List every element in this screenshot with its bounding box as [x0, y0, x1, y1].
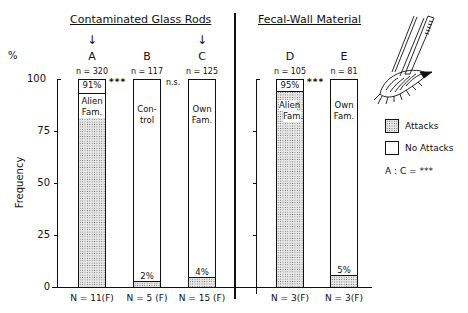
tick-75	[54, 131, 58, 132]
tick-100	[57, 79, 61, 80]
legend-swatch-no-attacks	[385, 141, 399, 155]
significance-B-C: n.s.	[166, 78, 180, 87]
n-label-D: n = 105	[265, 67, 315, 76]
arrow-down-icon-A: ↓	[72, 34, 112, 46]
bar-B-pct: 2%	[134, 271, 160, 281]
legend-note: A : C = ***	[385, 166, 433, 176]
legend-label-attacks: Attacks	[405, 121, 438, 131]
bar-B-label-2: trol	[134, 115, 160, 126]
bar-A: 91% Alien Fam.	[78, 79, 106, 288]
n-label-B: n = 117	[122, 67, 172, 76]
tick-label-100: 100	[18, 73, 46, 84]
tick-25	[54, 235, 58, 236]
bar-C-label-1: Own	[189, 104, 215, 115]
bar-D-label-1: Alien	[279, 100, 297, 111]
N-label-A: N = 11(F)	[62, 293, 122, 303]
N-label-E: N = 3(F)	[314, 293, 374, 303]
bar-letter-E: E	[324, 50, 364, 63]
tick-right-75	[253, 131, 257, 132]
bar-letter-B: B	[127, 50, 167, 63]
tick-label-0: 0	[22, 281, 50, 292]
bar-letter-D: D	[270, 50, 310, 63]
bar-E-attacks	[331, 275, 357, 287]
isopod-forceps-illustration-icon	[372, 8, 468, 108]
bar-C-label-2: Fam.	[189, 115, 215, 126]
tick-label-75: 75	[22, 125, 50, 136]
bar-E: Own Fam. 5%	[330, 79, 358, 288]
n-label-A: n = 320	[67, 67, 117, 76]
bar-C-attacks	[189, 277, 215, 287]
bar-B-attacks	[134, 281, 160, 287]
n-label-E: n = 81	[319, 67, 369, 76]
bar-A-label-1: Alien	[79, 96, 105, 107]
bar-D: 95% Alien Fam.	[276, 79, 304, 288]
N-label-D: N = 3(F)	[260, 293, 320, 303]
bar-D-label-2: Fam.	[283, 111, 301, 122]
significance-D-E: ***	[307, 77, 324, 87]
significance-A-B: ***	[109, 77, 126, 87]
bar-E-pct: 5%	[331, 265, 357, 275]
arrow-down-icon-C: ↓	[182, 34, 222, 46]
tick-right-50	[253, 183, 257, 184]
tick-50	[54, 183, 58, 184]
bar-B-label-1: Con-	[134, 104, 160, 115]
bar-A-pct: 91%	[79, 80, 105, 94]
n-label-C: n = 125	[177, 67, 227, 76]
bar-letter-A: A	[72, 50, 112, 63]
bar-letter-C: C	[182, 50, 222, 63]
legend-label-no-attacks: No Attacks	[405, 143, 454, 153]
tick-right-100	[256, 79, 260, 80]
bar-E-label-1: Own	[331, 100, 357, 111]
legend-swatch-attacks	[385, 119, 399, 133]
bar-E-label-2: Fam.	[331, 111, 357, 122]
tick-label-50: 50	[22, 177, 50, 188]
group-title-fecal-wall: Fecal-Wall Material	[258, 13, 361, 26]
N-label-C: N = 15 (F)	[172, 293, 232, 303]
tick-right-25	[253, 235, 257, 236]
y-axis-right	[256, 79, 257, 294]
bar-B: Con- trol 2%	[133, 79, 161, 288]
y-unit-label: %	[8, 50, 18, 61]
group-divider	[234, 13, 236, 299]
bar-C: Own Fam. 4%	[188, 79, 216, 288]
tick-label-25: 25	[22, 229, 50, 240]
group-title-glass-rods: Contaminated Glass Rods	[70, 13, 211, 26]
N-label-B: N = 5 (F)	[117, 293, 177, 303]
bar-D-pct: 95%	[277, 80, 303, 92]
bar-C-pct: 4%	[189, 267, 215, 277]
bar-A-attacks	[79, 96, 105, 287]
bar-A-label-2: Fam.	[79, 107, 105, 118]
